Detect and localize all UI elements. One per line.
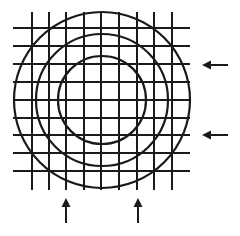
arrow-left-icon [202,61,228,70]
arrow-up-icon [134,198,143,223]
grid-circles-diagram [0,0,240,236]
arrow-up-icon [62,198,71,223]
arrow-left-icon [202,131,228,140]
